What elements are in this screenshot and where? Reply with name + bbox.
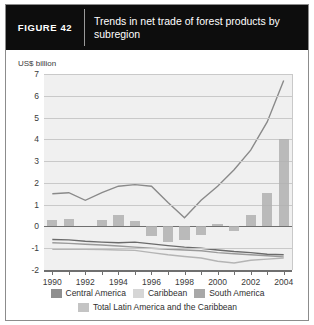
- plot-canvas: -2-101234567: [44, 74, 293, 270]
- bar: [246, 215, 256, 226]
- x-axis-tick: [102, 270, 103, 275]
- x-axis-tick: [118, 270, 119, 275]
- plot-area: -2-101234567 199019921994199619982000200…: [18, 74, 297, 322]
- y-axis-tick-label: 0: [34, 221, 39, 231]
- legend-item-central-america: Central America: [51, 288, 126, 298]
- y-axis-tick-label: -2: [31, 265, 39, 275]
- x-axis-tick: [267, 270, 268, 275]
- gridline: [44, 248, 292, 249]
- y-axis-tick-label: 7: [34, 69, 39, 79]
- bar: [229, 226, 239, 231]
- legend-item-total: Total Latin America and the Caribbean: [78, 302, 237, 312]
- figure-container: FIGURE 42 Trends in net trade of forest …: [5, 4, 309, 321]
- y-axis-tick-label: 3: [34, 156, 39, 166]
- legend-item-south-america: South America: [194, 288, 264, 298]
- x-axis-tick: [234, 270, 235, 275]
- x-axis-tick: [251, 270, 252, 275]
- chart-panel: US$ billion -2-101234567 199019921994199…: [6, 50, 308, 320]
- x-axis-tick: [52, 270, 53, 275]
- y-axis-unit-label: US$ billion: [18, 59, 56, 68]
- bar: [262, 193, 272, 227]
- x-axis-tick: [284, 270, 285, 275]
- legend-row-primary: Central America Caribbean South America: [18, 288, 297, 298]
- gridline: [44, 139, 292, 140]
- x-axis-tick: [69, 270, 70, 275]
- figure-number: FIGURE 42: [6, 5, 84, 50]
- line-series: [52, 81, 283, 218]
- gridline: [44, 161, 292, 162]
- legend-item-caribbean: Caribbean: [133, 288, 187, 298]
- x-axis-tick-label: 1994: [109, 277, 128, 287]
- y-axis-tick-label: 6: [34, 91, 39, 101]
- gridline: [44, 205, 292, 206]
- bar: [179, 226, 189, 240]
- gridline: [44, 118, 292, 119]
- gridline: [44, 96, 292, 97]
- x-axis-tick-label: 1996: [142, 277, 161, 287]
- legend-label: Caribbean: [148, 288, 187, 298]
- x-axis-tick-label: 2000: [208, 277, 227, 287]
- y-axis-tick-label: 1: [34, 200, 39, 210]
- gridline: [44, 183, 292, 184]
- legend-swatch-icon: [133, 289, 144, 298]
- bar: [130, 221, 140, 226]
- x-axis-tick: [185, 270, 186, 275]
- y-axis-tick-label: 4: [34, 134, 39, 144]
- bar: [279, 139, 289, 226]
- bar: [47, 220, 57, 226]
- bar: [196, 226, 206, 234]
- x-axis-tick: [201, 270, 202, 275]
- legend-label: Total Latin America and the Caribbean: [93, 302, 237, 312]
- legend-swatch-icon: [194, 289, 205, 298]
- legend-swatch-icon: [78, 303, 89, 312]
- x-axis-tick-label: 1998: [175, 277, 194, 287]
- x-axis-tick: [151, 270, 152, 275]
- x-axis-tick-label: 1990: [43, 277, 62, 287]
- bar: [97, 220, 107, 227]
- x-axis-tick: [168, 270, 169, 275]
- bar: [113, 215, 123, 226]
- x-axis-tick-label: 2002: [241, 277, 260, 287]
- x-axis-tick: [218, 270, 219, 275]
- figure-header: FIGURE 42 Trends in net trade of forest …: [6, 5, 308, 50]
- bar: [64, 219, 74, 227]
- bar: [146, 226, 156, 236]
- line-series: [52, 249, 283, 263]
- bar: [163, 226, 173, 242]
- y-axis-tick-label: -1: [31, 243, 39, 253]
- legend-label: South America: [209, 288, 264, 298]
- x-axis-tick-label: 2004: [274, 277, 293, 287]
- figure-title: Trends in net trade of forest products b…: [85, 5, 308, 50]
- y-axis-tick-label: 2: [34, 178, 39, 188]
- legend-swatch-icon: [51, 289, 62, 298]
- legend-label: Central America: [66, 288, 126, 298]
- legend-row-total: Total Latin America and the Caribbean: [18, 302, 297, 312]
- y-axis-tick-label: 5: [34, 113, 39, 123]
- x-axis-tick: [135, 270, 136, 275]
- chart-legend: Central America Caribbean South America …: [18, 288, 297, 316]
- x-axis-tick-label: 1992: [76, 277, 95, 287]
- x-axis-tick: [85, 270, 86, 275]
- gridline: [44, 74, 292, 75]
- bar: [212, 224, 222, 227]
